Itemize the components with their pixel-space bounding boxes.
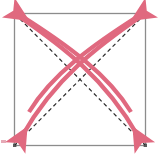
- fold-diagram-canvas: [0, 0, 160, 162]
- fold-diagram-figure: Fold diagram: square with two dashed dia…: [0, 0, 160, 162]
- left-edge-artifact: [1, 140, 6, 143]
